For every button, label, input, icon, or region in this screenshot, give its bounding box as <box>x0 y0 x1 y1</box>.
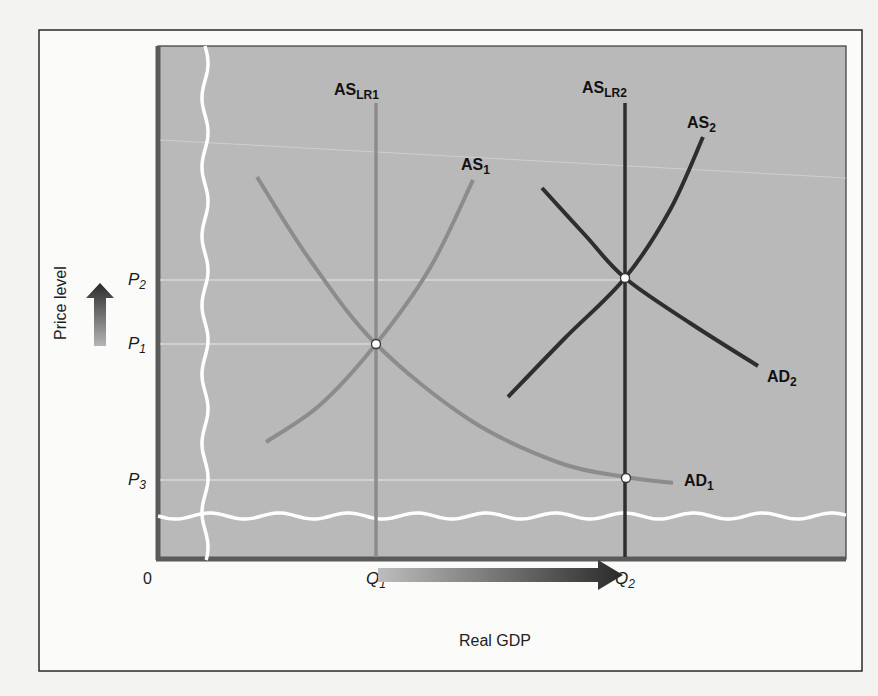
aggregate-supply-demand-chart: ASLR1ASLR2AS1AS2AD1AD2 P2P1P3Q1Q2 0 Pric… <box>0 0 878 696</box>
equilibrium-e1 <box>372 340 381 349</box>
equilibrium-e2 <box>621 274 630 283</box>
x-axis-title: Real GDP <box>459 632 531 649</box>
y-axis-title: Price level <box>52 266 69 340</box>
equilibrium-e3 <box>622 474 631 483</box>
plot-area <box>158 46 846 559</box>
origin-label: 0 <box>143 570 152 587</box>
